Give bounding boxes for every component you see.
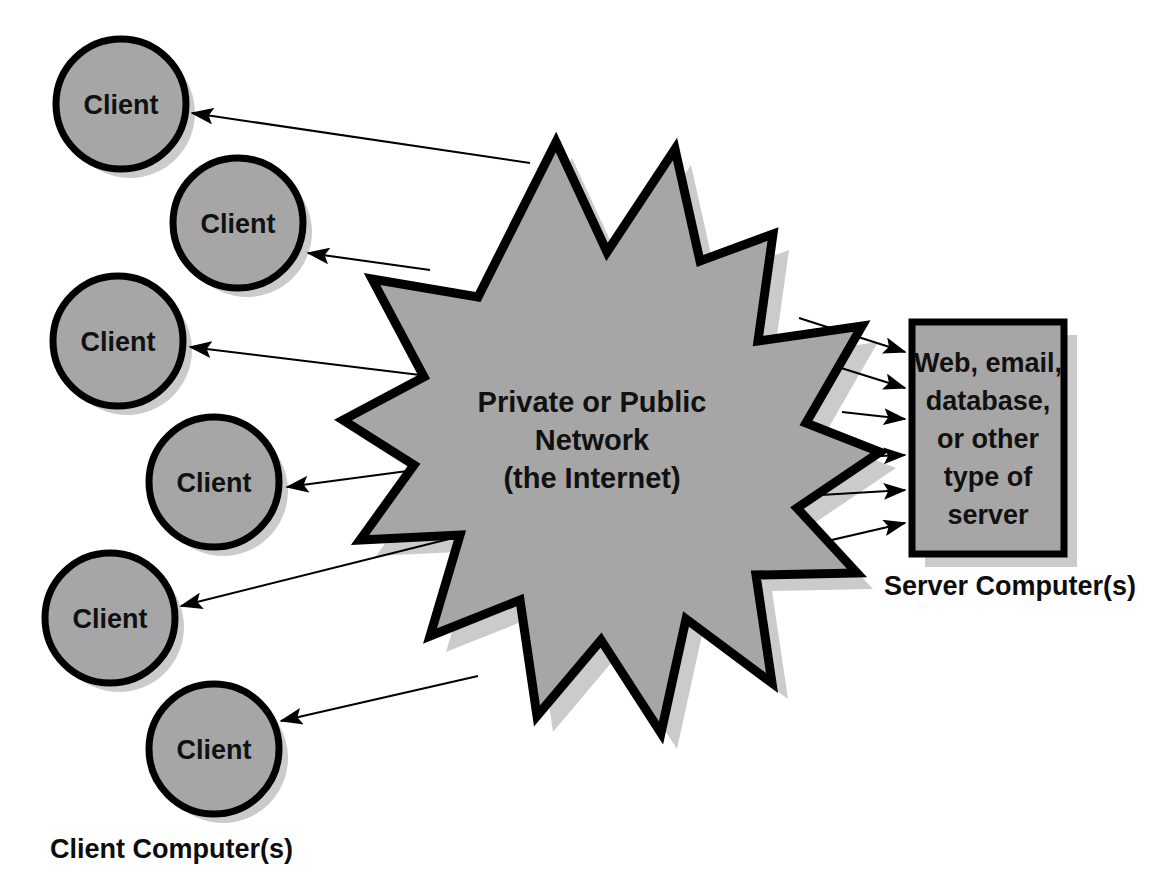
client-label-4: Client xyxy=(176,468,251,498)
diagram-canvas: Private or Public Network (the Internet)… xyxy=(0,0,1176,884)
client-4[interactable]: Client xyxy=(149,417,279,547)
client-5[interactable]: Client xyxy=(45,553,175,683)
network-label-line-2: Network xyxy=(535,424,650,456)
arrow-network-to-client-6 xyxy=(281,676,478,721)
server-label-line-5: server xyxy=(947,500,1029,530)
client-caption: Client Computer(s) xyxy=(50,834,293,864)
network-label-line-3: (the Internet) xyxy=(503,462,680,494)
arrow-network-to-client-2 xyxy=(308,253,430,270)
server-label-line-3: or other xyxy=(937,424,1039,454)
server-node[interactable]: Web, email, database, or other type of s… xyxy=(912,322,1064,554)
arrow-network-to-client-3 xyxy=(190,347,420,375)
server-label-line-2: database, xyxy=(926,386,1051,416)
client-3[interactable]: Client xyxy=(53,276,183,406)
server-caption: Server Computer(s) xyxy=(884,571,1136,601)
server-label-line-1: Web, email, xyxy=(914,348,1062,378)
network-label-line-1: Private or Public xyxy=(478,386,707,418)
client-label-1: Client xyxy=(83,90,158,120)
client-label-5: Client xyxy=(72,604,147,634)
client-label-3: Client xyxy=(80,327,155,357)
server-label-line-4: type of xyxy=(944,462,1034,492)
network-cloud[interactable]: Private or Public Network (the Internet) xyxy=(343,142,880,733)
client-label-6: Client xyxy=(176,735,251,765)
client-label-2: Client xyxy=(200,209,275,239)
network-diagram: Private or Public Network (the Internet)… xyxy=(0,0,1176,884)
client-6[interactable]: Client xyxy=(149,684,279,814)
arrow-network-to-server-3 xyxy=(842,412,905,419)
client-2[interactable]: Client xyxy=(173,158,303,288)
client-1[interactable]: Client xyxy=(56,39,186,169)
